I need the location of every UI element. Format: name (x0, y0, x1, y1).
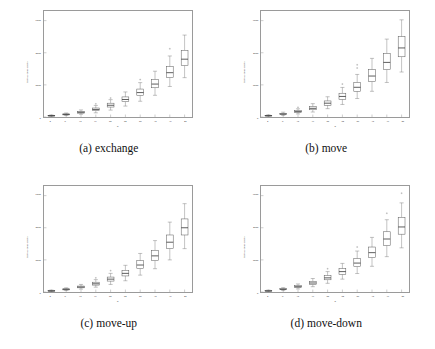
caption-text: move (322, 142, 348, 154)
boxplot-box (339, 263, 346, 279)
x-tick-label: 36 (386, 120, 389, 123)
box-iqr (166, 67, 173, 78)
y-tick-label: 6000 (253, 193, 258, 196)
x-tick-label: 4 (50, 120, 51, 123)
boxplot-box (166, 48, 173, 87)
boxplot-box (151, 240, 158, 268)
boxplot-canvas-move-down (261, 186, 409, 292)
boxplot-box (181, 35, 188, 78)
boxplot-box (48, 290, 55, 291)
x-tick-label: 4 (267, 120, 268, 123)
plot-area-move-up: fitness evaluations 0200040006000 481216… (19, 183, 199, 311)
boxplot-box (77, 110, 84, 114)
x-tick-label: 20 (326, 120, 329, 123)
caption-tag: (b) (305, 142, 318, 154)
y-tick-label: 0 (257, 117, 258, 120)
x-tick-label: 16 (94, 120, 97, 123)
x-tick-label: 16 (94, 295, 97, 298)
x-tick-label: 32 (154, 295, 157, 298)
caption-text: move-up (96, 317, 137, 329)
x-tick-label: 28 (139, 295, 142, 298)
x-tick-label: 16 (311, 295, 314, 298)
axes-move-down (260, 185, 410, 293)
boxplot-box (295, 106, 302, 113)
box-iqr (151, 80, 158, 88)
boxplot-box (92, 276, 99, 286)
x-tick-label: 8 (282, 295, 283, 298)
y-tick-label: 4000 (36, 51, 41, 54)
boxplot-canvas-move (261, 11, 409, 117)
plot-area-exchange: fitness evaluations 0200040006000 481216… (19, 8, 199, 136)
x-tick-label: 8 (282, 120, 283, 123)
x-tick-label: 40 (184, 295, 187, 298)
panel-move-down: fitness evaluations 0200040006000 481216… (218, 175, 435, 349)
y-tick-label: 6000 (36, 18, 41, 21)
y-tick-label: 4000 (253, 226, 258, 229)
boxplot-box (137, 79, 144, 102)
boxplot-box (265, 290, 272, 291)
x-tick-label: 28 (356, 295, 359, 298)
boxplot-box (151, 71, 158, 95)
boxplot-box (280, 112, 287, 115)
x-tick-label: 12 (296, 120, 299, 123)
y-tick-label: 6000 (36, 193, 41, 196)
caption-tag: (a) (79, 142, 92, 154)
panel-move-up: fitness evaluations 0200040006000 481216… (0, 175, 218, 349)
box-iqr (151, 250, 158, 260)
axes-exchange (43, 10, 193, 118)
caption-tag: (d) (291, 317, 304, 329)
box-iqr (354, 82, 361, 91)
y-tick-label: 2000 (36, 84, 41, 87)
boxplot-box (354, 64, 361, 99)
boxplot-box (107, 97, 114, 110)
boxplot-box (310, 104, 317, 112)
panel-exchange: fitness evaluations 0200040006000 481216… (0, 0, 218, 175)
boxplot-box (265, 115, 272, 117)
x-tick-label: 20 (326, 295, 329, 298)
x-tick-label: 8 (65, 120, 66, 123)
x-tick-label: 24 (341, 120, 344, 123)
x-tick-label: 4 (50, 295, 51, 298)
boxplot-box (384, 39, 391, 82)
y-tick-label-group: 0200040006000 (242, 8, 258, 118)
x-tick-label: 12 (296, 295, 299, 298)
y-tick-label-group: 0200040006000 (242, 183, 258, 293)
box-iqr (181, 50, 188, 65)
x-tick-label: 24 (341, 295, 344, 298)
y-tick-label: 2000 (253, 84, 258, 87)
boxplot-box (369, 237, 376, 266)
boxplot-box (181, 203, 188, 248)
panel-caption-move-up: (c)move-up (80, 317, 137, 329)
boxplot-box (310, 278, 317, 286)
boxplot-box (384, 212, 391, 256)
x-tick-label: 16 (311, 120, 314, 123)
y-tick-label: 0 (39, 117, 40, 120)
boxplot-box (398, 20, 405, 72)
boxplot-box (295, 283, 302, 288)
y-tick-label: 4000 (36, 226, 41, 229)
boxplot-figure-grid: fitness evaluations 0200040006000 481216… (0, 0, 435, 349)
x-tick-label: 28 (139, 120, 142, 123)
y-tick-label: 2000 (253, 258, 258, 261)
y-tick-label: 0 (257, 291, 258, 294)
boxplot-box (354, 246, 361, 273)
box-iqr (384, 54, 391, 70)
boxplot-box (92, 103, 99, 113)
panel-caption-move-down: (d)move-down (291, 317, 362, 329)
box-iqr (384, 231, 391, 245)
x-tick-label: 40 (401, 120, 404, 123)
box-iqr (369, 70, 376, 82)
x-tick-label: 8 (65, 295, 66, 298)
box-iqr (166, 234, 173, 248)
x-axis-title: n (43, 300, 193, 303)
boxplot-box (324, 97, 331, 109)
boxplot-box (280, 287, 287, 290)
axes-move-up (43, 185, 193, 293)
x-tick-label: 28 (356, 120, 359, 123)
x-tick-label: 40 (184, 120, 187, 123)
x-tick-label: 24 (124, 120, 127, 123)
box-iqr (398, 37, 405, 57)
boxplot-box (77, 284, 84, 289)
boxplot-box (122, 265, 129, 280)
boxplot-box (324, 267, 331, 282)
